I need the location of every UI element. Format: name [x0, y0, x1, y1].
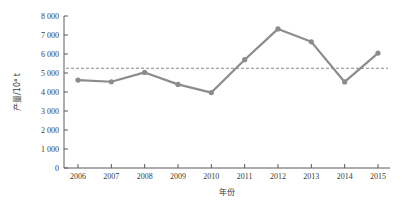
- y-tick-label: 7 000: [41, 31, 59, 40]
- y-tick-label: 3 000: [41, 107, 59, 116]
- data-point-marker: [75, 77, 80, 82]
- x-axis: 2006200720082009201020112012201320142015: [64, 164, 390, 181]
- y-axis-title: 产量/10⁴ t: [12, 73, 22, 111]
- y-tick-label: 8 000: [41, 12, 59, 21]
- x-tick-label: 2015: [370, 172, 386, 181]
- x-tick-label: 2007: [103, 172, 119, 181]
- data-point-marker: [109, 79, 114, 84]
- x-tick-label: 2011: [237, 172, 253, 181]
- y-tick-label: 4 000: [41, 88, 59, 97]
- x-tick-label: 2008: [137, 172, 153, 181]
- y-tick-label: 0: [55, 164, 59, 173]
- data-point-marker: [175, 82, 180, 87]
- x-axis-title: 年份: [219, 187, 235, 197]
- x-tick-label: 2013: [303, 172, 319, 181]
- series-line-产量: [78, 29, 378, 93]
- y-tick-label: 6 000: [41, 50, 59, 59]
- chart-canvas: 01 0002 0003 0004 0005 0006 0007 0008 00…: [0, 0, 405, 211]
- y-axis: 01 0002 0003 0004 0005 0006 0007 0008 00…: [41, 12, 68, 173]
- data-point-marker: [142, 70, 147, 75]
- x-tick-label: 2012: [270, 172, 286, 181]
- x-tick-label: 2010: [203, 172, 219, 181]
- x-tick-label: 2014: [337, 172, 353, 181]
- data-series: [75, 26, 380, 95]
- data-point-marker: [375, 50, 380, 55]
- data-point-marker: [209, 90, 214, 95]
- y-tick-label: 2 000: [41, 126, 59, 135]
- line-chart: 01 0002 0003 0004 0005 0006 0007 0008 00…: [0, 0, 405, 211]
- data-point-marker: [342, 79, 347, 84]
- x-tick-label: 2006: [70, 172, 86, 181]
- data-point-marker: [275, 26, 280, 31]
- y-tick-label: 1 000: [41, 145, 59, 154]
- y-tick-label: 5 000: [41, 69, 59, 78]
- data-point-marker: [242, 57, 247, 62]
- data-point-marker: [309, 39, 314, 44]
- x-tick-label: 2009: [170, 172, 186, 181]
